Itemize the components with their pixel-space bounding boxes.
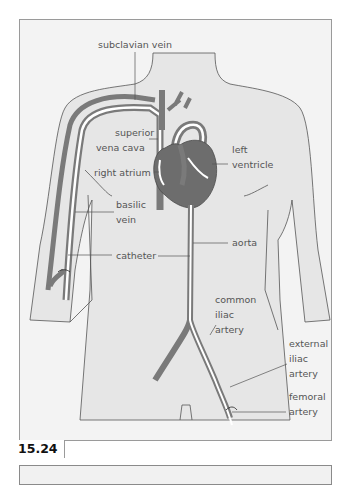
- label-subclavian-vein: subclavian vein: [98, 39, 172, 50]
- label-common-iliac: common: [215, 294, 256, 305]
- label-external-iliac: external: [289, 338, 328, 349]
- label-basilic-vein: basilic: [116, 199, 146, 210]
- label-aorta: aorta: [232, 237, 257, 248]
- label-basilic-vein-2: vein: [116, 214, 136, 225]
- label-superior-vena-cava: superior: [115, 127, 154, 138]
- label-common-iliac-3: artery: [215, 324, 244, 335]
- label-right-atrium: right atrium: [94, 167, 151, 178]
- label-common-iliac-2: iliac: [215, 309, 234, 320]
- label-left-ventricle: left: [232, 144, 248, 155]
- label-external-iliac-3: artery: [289, 368, 318, 379]
- caption-box: [19, 465, 332, 485]
- figure-number: 15.24: [17, 440, 65, 458]
- label-catheter: catheter: [116, 250, 156, 261]
- label-left-ventricle-2: ventricle: [232, 159, 274, 170]
- label-femoral-artery-2: artery: [289, 406, 318, 417]
- label-superior-vena-cava-2: vena cava: [96, 142, 145, 153]
- label-external-iliac-2: iliac: [289, 353, 308, 364]
- label-femoral-artery: femoral: [289, 391, 326, 402]
